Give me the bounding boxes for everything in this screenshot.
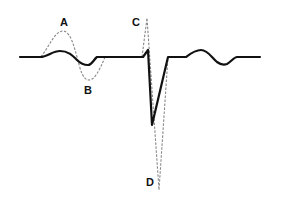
label-d: D: [146, 177, 154, 188]
solid-waveform: [20, 50, 260, 125]
label-c: C: [132, 17, 140, 28]
label-a: A: [60, 17, 68, 28]
waveform-diagram: [0, 0, 281, 205]
dashed-spike-c-d: [142, 18, 168, 190]
label-b: B: [84, 85, 92, 96]
